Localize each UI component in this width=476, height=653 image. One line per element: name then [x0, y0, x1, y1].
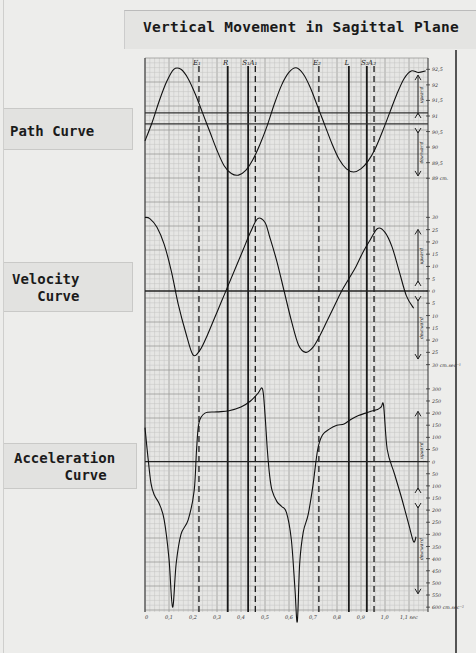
y-tick-label: 25	[431, 350, 438, 355]
y-tick-label: 20	[431, 240, 438, 245]
event-marker-label: R	[222, 59, 229, 67]
downward-label: downward	[419, 141, 424, 163]
event-marker-label: E₁	[192, 59, 201, 67]
event-marker-label: L	[344, 59, 350, 67]
y-tick-label: 90,5	[432, 130, 443, 135]
y-tick-label: 400	[431, 557, 441, 562]
event-marker-label: E₂	[312, 59, 321, 67]
y-tick-label: 150	[432, 496, 441, 501]
y-tick-label: 92,5	[432, 67, 443, 72]
y-tick-label: 20	[431, 338, 438, 343]
downward-label: downward	[419, 538, 424, 560]
y-tick-label: 89 cm.	[432, 176, 449, 181]
x-tick-label: 1,1 sec	[400, 614, 418, 620]
y-tick-label: 15	[432, 326, 438, 331]
y-tick-label: 100	[432, 435, 441, 440]
x-tick-label: 0,1	[165, 614, 173, 620]
y-tick-label: 200	[431, 508, 441, 513]
y-tick-label: 15	[432, 252, 438, 257]
y-tick-label: 10	[432, 314, 438, 319]
y-tick-label: 90	[432, 145, 438, 150]
y-tick-label: 150	[432, 423, 441, 428]
y-tick-label: 91,5	[432, 98, 443, 103]
x-tick-label: 0,5	[261, 614, 269, 620]
y-tick-label: 100	[432, 484, 441, 489]
x-tick-label: 0,2	[189, 614, 197, 620]
y-tick-label: 300	[432, 387, 441, 392]
upward-label: upward	[419, 442, 424, 459]
x-tick-label: 0,4	[237, 614, 245, 620]
y-tick-label: 50	[432, 447, 438, 452]
y-tick-label: 89,5	[432, 161, 443, 166]
upward-label: upward	[419, 87, 424, 104]
y-tick-label: 91	[432, 114, 438, 119]
y-tick-label: 0	[432, 289, 435, 294]
y-tick-label: 5	[432, 301, 435, 306]
x-tick-label: 0,9	[357, 614, 366, 620]
y-tick-label: 30 cm.sec⁻¹	[432, 363, 461, 368]
event-marker-label: A₁	[248, 59, 257, 67]
y-tick-label: 92	[432, 83, 438, 88]
y-tick-label: 5	[432, 277, 435, 282]
x-tick-label: 1,0	[381, 614, 390, 620]
y-tick-label: 50	[432, 472, 438, 477]
upward-label: upward	[419, 248, 424, 265]
y-tick-label: 250	[431, 399, 441, 404]
x-tick-label: 0,7	[309, 614, 318, 620]
y-tick-label: 550	[432, 593, 441, 598]
x-tick-label: 0,8	[333, 614, 341, 620]
y-tick-label: 200	[431, 411, 441, 416]
y-tick-label: 10	[432, 264, 438, 269]
x-tick-label: 0	[145, 614, 149, 620]
x-tick-label: 0,6	[285, 614, 294, 620]
y-tick-label: 25	[431, 228, 438, 233]
y-tick-label: 350	[432, 545, 441, 550]
y-tick-label: 250	[431, 520, 441, 525]
y-tick-label: 600 cm.sec⁻²	[432, 605, 464, 610]
y-tick-label: 500	[432, 581, 441, 586]
y-tick-label: 300	[432, 532, 441, 537]
event-marker-label: A₂	[367, 59, 376, 67]
downward-label: downward	[419, 317, 424, 339]
x-tick-label: 0,3	[213, 614, 221, 620]
y-tick-label: 30	[432, 215, 438, 220]
y-tick-label: 450	[431, 569, 441, 574]
plot-background	[145, 58, 428, 612]
y-tick-label: 0	[432, 460, 435, 465]
